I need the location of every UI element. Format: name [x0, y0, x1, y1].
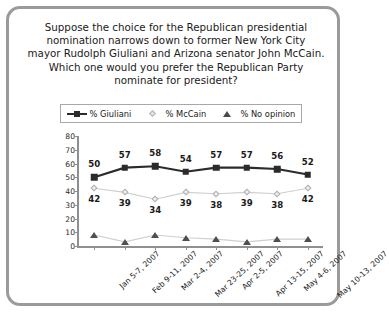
data-point-label: 39 [241, 198, 253, 208]
title-line-5: nominate for president? [23, 74, 329, 87]
chart-plot-area: 0102030405060708050575854575756524239343… [79, 136, 323, 246]
y-axis-tick-mark [74, 191, 78, 192]
data-point-marker [151, 232, 159, 238]
legend-item-no-opinion[interactable]: % No opinion [217, 109, 295, 119]
legend-label-no-opinion: % No opinion [240, 109, 295, 119]
data-point-marker [122, 164, 129, 171]
y-axis-tick-mark [74, 164, 78, 165]
data-point-label: 56 [271, 151, 283, 161]
y-axis-tick-mark [74, 205, 78, 206]
y-axis-tick-mark [74, 177, 78, 178]
title-line-4: Which one would you prefer the Republica… [23, 61, 329, 74]
poll-card-frame: Suppose the choice for the Republican pr… [6, 6, 340, 306]
data-point-label: 38 [271, 200, 283, 210]
data-point-marker [121, 239, 129, 245]
data-point-marker [213, 164, 220, 171]
title-line-3: mayor Rudolph Giuliani and Arizona senat… [23, 47, 329, 60]
data-point-marker [273, 236, 281, 242]
data-point-label: 39 [119, 198, 131, 208]
data-point-label: 39 [180, 198, 192, 208]
data-point-label: 52 [302, 157, 314, 167]
x-axis-labels: Jan 5-7, 2007Feb 9-11, 2007Mar 2-4, 2007… [79, 249, 323, 318]
data-point-marker [244, 164, 251, 171]
data-point-marker [152, 163, 159, 170]
data-point-marker [304, 236, 312, 242]
y-axis-tick-mark [74, 219, 78, 220]
legend-label-mccain: % McCain [166, 109, 207, 119]
y-axis-tick-mark [74, 232, 78, 233]
legend-label-giuliani: % Giuliani [90, 109, 132, 119]
data-point-label: 54 [180, 154, 192, 164]
filled-square-icon [67, 109, 87, 118]
y-axis-tick-mark [74, 246, 78, 247]
y-axis-tick-mark [74, 150, 78, 151]
series-lines [79, 136, 323, 246]
data-point-label: 57 [210, 150, 222, 160]
data-point-label: 42 [88, 194, 100, 204]
data-point-marker [274, 166, 281, 173]
data-point-marker [183, 169, 190, 176]
chart-question-title: Suppose the choice for the Republican pr… [23, 21, 329, 87]
data-point-label: 50 [88, 159, 100, 169]
legend-item-mccain[interactable]: % McCain [143, 109, 207, 119]
data-point-label: 57 [241, 150, 253, 160]
data-point-marker [243, 239, 251, 245]
legend-item-giuliani[interactable]: % Giuliani [67, 109, 132, 119]
data-point-label: 42 [302, 194, 314, 204]
title-line-2: nomination narrows down to former New Yo… [23, 34, 329, 47]
y-axis-tick-mark [74, 136, 78, 137]
data-point-label: 34 [149, 205, 161, 215]
data-point-label: 57 [119, 150, 131, 160]
data-point-marker [182, 235, 190, 241]
data-point-label: 38 [210, 200, 222, 210]
x-axis-line [77, 246, 323, 248]
data-point-label: 58 [149, 148, 161, 158]
data-point-marker [90, 232, 98, 238]
chart-legend: % Giuliani % McCain % No opinion [60, 104, 302, 123]
data-point-marker [91, 174, 98, 181]
data-point-marker [305, 171, 312, 178]
title-line-1: Suppose the choice for the Republican pr… [23, 21, 329, 34]
filled-triangle-icon [217, 109, 237, 118]
data-point-marker [212, 236, 220, 242]
open-diamond-icon [143, 109, 163, 118]
